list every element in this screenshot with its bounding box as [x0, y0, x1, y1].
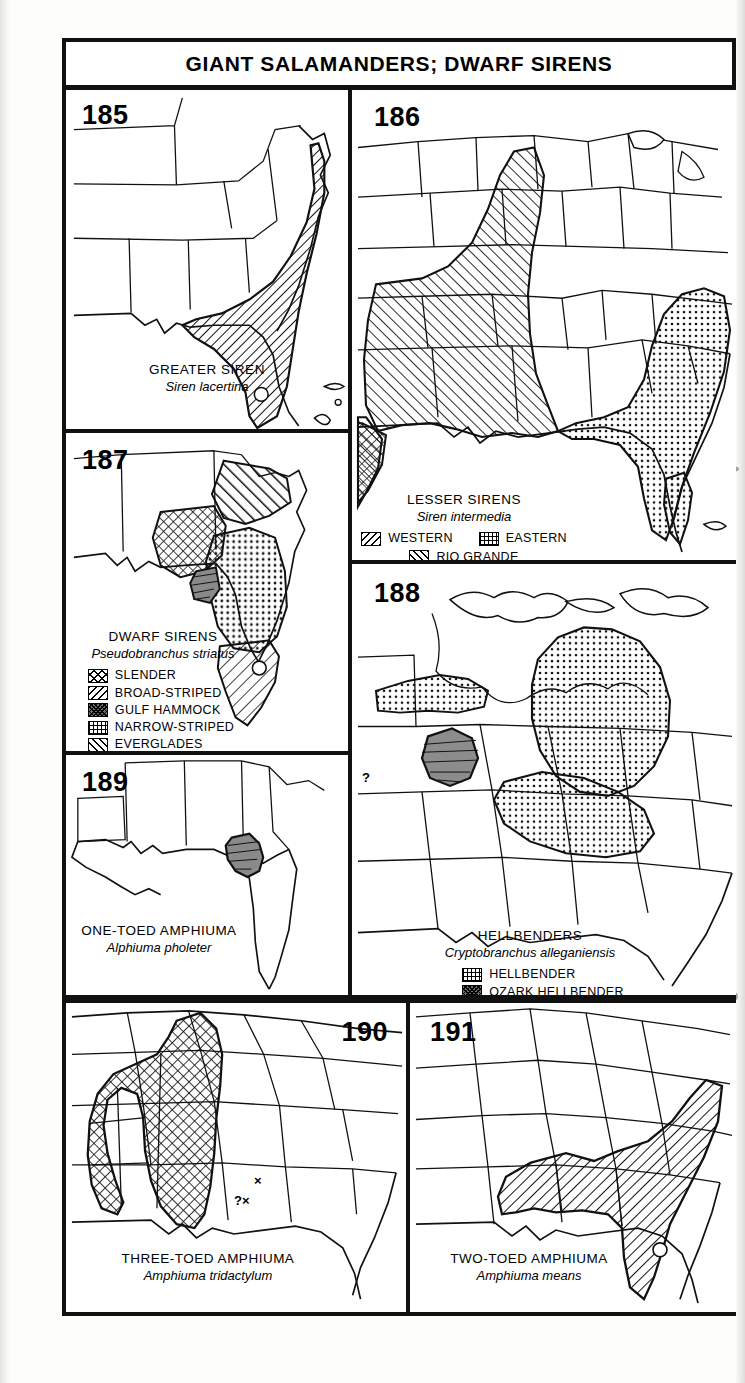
panel-caption-185: GREATER SIREN Siren lacertina	[66, 362, 348, 395]
panel-caption-188: HELLBENDERS Cryptobranchus alleganiensis…	[352, 928, 722, 999]
legend-item[interactable]: RIO GRANDE	[361, 550, 567, 564]
legend-label: SLENDER	[115, 668, 176, 683]
legend-item[interactable]: EVERGLADES	[88, 737, 234, 752]
legend-label: BROAD-STRIPED	[115, 686, 222, 701]
species-common-name: DWARF SIRENS	[66, 629, 304, 645]
map-panel-188[interactable]: 188	[352, 564, 736, 999]
legend-186: WESTERN EASTERN RIO GRANDE	[361, 529, 567, 564]
legend-swatch-eastern-icon	[479, 532, 499, 546]
legend-item[interactable]: SLENDER	[88, 668, 234, 683]
panel-caption-190: THREE-TOED AMPHIUMA Amphiuma tridactylum	[66, 1251, 378, 1284]
legend-label: RIO GRANDE	[436, 550, 518, 564]
legend-label: HELLBENDER	[489, 967, 575, 982]
species-scientific-name: Siren intermedia	[352, 509, 656, 525]
legend-188: HELLBENDER OZARK HELLBENDER	[462, 965, 624, 999]
uncertain-range-marker: ?	[362, 770, 370, 785]
legend-item[interactable]: HELLBENDER	[462, 967, 624, 982]
scan-edge-right	[735, 0, 745, 1383]
scan-edge-left	[0, 0, 10, 1383]
page-title: GIANT SALAMANDERS; DWARF SIRENS	[186, 52, 613, 76]
panel-caption-186: LESSER SIRENS Siren intermedia WESTERN E…	[352, 492, 656, 564]
legend-swatch-rio-grande-icon	[409, 550, 429, 564]
map-panel-187[interactable]: 187	[66, 433, 352, 755]
legend-swatch-slender-icon	[88, 669, 108, 683]
page-title-bar: GIANT SALAMANDERS; DWARF SIRENS	[66, 42, 732, 90]
page-frame: GIANT SALAMANDERS; DWARF SIRENS 185	[62, 38, 736, 1316]
species-common-name: ONE-TOED AMPHIUMA	[66, 923, 300, 939]
panel-number-191: 191	[430, 1017, 477, 1048]
species-scientific-name: Alphiuma pholeter	[66, 940, 300, 956]
legend-item[interactable]: EASTERN	[479, 531, 567, 546]
legend-swatch-gulf-hammock-icon	[88, 703, 108, 717]
species-common-name: TWO-TOED AMPHIUMA	[410, 1251, 692, 1267]
legend-label: EVERGLADES	[115, 737, 203, 752]
panel-number-189: 189	[82, 767, 129, 798]
map-panel-190[interactable]: 190	[66, 999, 410, 1312]
legend-item[interactable]: NARROW-STRIPED	[88, 720, 234, 735]
species-scientific-name: Pseudobranchus striatus	[66, 646, 304, 662]
legend-label: OZARK HELLBENDER	[489, 985, 624, 999]
range-map-186	[352, 90, 736, 560]
species-common-name: GREATER SIREN	[66, 362, 348, 378]
legend-item[interactable]: GULF HAMMOCK	[88, 703, 234, 718]
legend-187: SLENDER BROAD-STRIPED GULF HAMMOCK NARRO…	[88, 666, 234, 752]
map-panel-185[interactable]: 185	[66, 90, 352, 433]
legend-swatch-broad-striped-icon	[88, 686, 108, 700]
panel-number-185: 185	[82, 100, 129, 131]
panel-number-190: 190	[341, 1017, 388, 1048]
record-marker: ×	[254, 1173, 262, 1188]
species-scientific-name: Cryptobranchus alleganiensis	[352, 945, 722, 961]
panel-number-187: 187	[82, 445, 129, 476]
legend-label: NARROW-STRIPED	[115, 720, 234, 735]
map-panel-189[interactable]: 189 ONE-TOED AMPHIUMA Alphiuma pholeter	[66, 755, 352, 999]
legend-label: EASTERN	[506, 531, 567, 546]
legend-item[interactable]: OZARK HELLBENDER	[462, 985, 624, 999]
species-common-name: THREE-TOED AMPHIUMA	[66, 1251, 378, 1267]
species-scientific-name: Amphiuma tridactylum	[66, 1268, 378, 1284]
panel-number-186: 186	[374, 102, 421, 133]
legend-swatch-hellbender-icon	[462, 968, 482, 982]
legend-item[interactable]: WESTERN	[361, 531, 453, 546]
uncertain-record-marker: ?×	[234, 1193, 250, 1208]
legend-swatch-everglades-icon	[88, 738, 108, 752]
species-common-name: LESSER SIRENS	[352, 492, 656, 508]
panel-caption-191: TWO-TOED AMPHIUMA Amphiuma means	[410, 1251, 692, 1284]
species-common-name: HELLBENDERS	[352, 928, 722, 944]
legend-swatch-western-icon	[361, 532, 381, 546]
map-panel-191[interactable]: 191	[410, 999, 736, 1312]
species-scientific-name: Siren lacertina	[66, 379, 348, 395]
page-canvas: GIANT SALAMANDERS; DWARF SIRENS 185	[0, 0, 745, 1383]
map-panel-186[interactable]: 186	[352, 90, 736, 564]
legend-swatch-ozark-hellbender-icon	[462, 985, 482, 999]
panel-caption-189: ONE-TOED AMPHIUMA Alphiuma pholeter	[66, 923, 300, 956]
panel-number-188: 188	[374, 578, 421, 609]
legend-swatch-narrow-striped-icon	[88, 721, 108, 735]
species-scientific-name: Amphiuma means	[410, 1268, 692, 1284]
panel-caption-187: DWARF SIRENS Pseudobranchus striatus SLE…	[66, 629, 304, 755]
legend-label: GULF HAMMOCK	[115, 703, 221, 718]
legend-item[interactable]: BROAD-STRIPED	[88, 686, 234, 701]
legend-label: WESTERN	[388, 531, 453, 546]
